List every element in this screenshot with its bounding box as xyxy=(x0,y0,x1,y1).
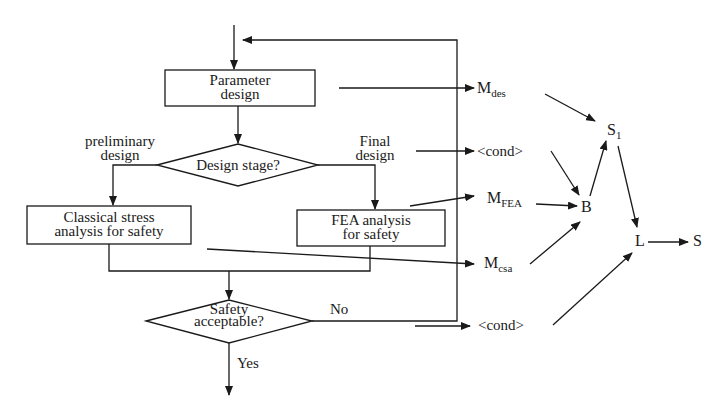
edge-s1-l xyxy=(618,146,637,227)
fea-line2: for safety xyxy=(297,227,445,241)
design-stage-label: Design stage? xyxy=(157,158,319,172)
m-fea-arrow xyxy=(410,196,474,206)
fea-analysis-label: FEA analysis for safety xyxy=(297,213,445,241)
no-label: No xyxy=(330,302,348,316)
preliminary-line1: preliminary xyxy=(70,134,170,148)
edge-cond-b xyxy=(551,151,579,195)
edge-mfea-b xyxy=(536,204,577,206)
classical-stress-label: Classical stress analysis for safety xyxy=(27,210,191,238)
classical-line1: Classical stress xyxy=(27,210,191,224)
parameter-line1: Parameter xyxy=(165,73,315,87)
preliminary-design-label: preliminary design xyxy=(70,134,170,162)
safety-acceptable-label: Safety acceptable? xyxy=(146,303,312,327)
final-line1: Final xyxy=(335,134,415,148)
m-des-base: M xyxy=(477,79,491,96)
m-fea-node: MFEA xyxy=(487,191,522,205)
node-l: L xyxy=(635,234,645,248)
node-s: S xyxy=(693,234,702,248)
diagram-canvas xyxy=(0,0,724,414)
merge-line xyxy=(109,244,370,271)
final-branch-arrow xyxy=(318,165,375,209)
edge-mcsa-b xyxy=(530,222,580,264)
node-s1: S1 xyxy=(607,123,621,137)
preliminary-line2: design xyxy=(70,148,170,162)
preliminary-branch-arrow xyxy=(113,165,157,205)
m-csa-sub: csa xyxy=(498,262,512,274)
fea-line1: FEA analysis xyxy=(297,213,445,227)
edge-cond-l xyxy=(553,253,632,325)
cond-top-node: <cond> xyxy=(477,144,523,158)
m-fea-sub: FEA xyxy=(501,197,522,209)
safety-line2: acceptable? xyxy=(146,315,312,327)
final-design-label: Final design xyxy=(335,134,415,162)
m-csa-base: M xyxy=(484,254,498,271)
m-des-sub: des xyxy=(491,87,506,99)
classical-line2: analysis for safety xyxy=(27,224,191,238)
m-fea-base: M xyxy=(487,189,501,206)
m-csa-node: Mcsa xyxy=(484,256,512,270)
edge-mdes-s1 xyxy=(545,94,595,121)
m-des-node: Mdes xyxy=(477,81,506,95)
parameter-design-label: Parameter design xyxy=(165,73,315,101)
final-line2: design xyxy=(335,148,415,162)
s1-sub: 1 xyxy=(616,129,622,141)
parameter-line2: design xyxy=(165,87,315,101)
cond-bottom-node: <cond> xyxy=(478,318,524,332)
s1-base: S xyxy=(607,121,616,138)
edge-b-s1 xyxy=(590,141,606,196)
m-csa-arrow xyxy=(207,249,474,264)
yes-label: Yes xyxy=(237,356,259,370)
node-b: B xyxy=(581,200,592,214)
